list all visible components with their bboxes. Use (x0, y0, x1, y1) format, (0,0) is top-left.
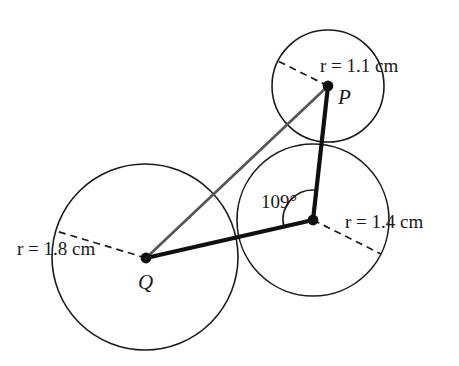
labels-group: r = 1.1 cm r = 1.8 cm r = 1.4 cm 109° P … (17, 55, 423, 294)
radius-label-circle-q: r = 1.8 cm (17, 238, 95, 259)
segment-r-p (313, 86, 328, 220)
geometry-diagram: r = 1.1 cm r = 1.8 cm r = 1.4 cm 109° P … (0, 0, 459, 366)
angle-label-109: 109° (261, 191, 297, 212)
radius-label-circle-r: r = 1.4 cm (345, 211, 423, 232)
triangle-group (146, 86, 328, 258)
segment-q-r (146, 220, 313, 258)
circles-group (52, 30, 389, 350)
center-dot-p (323, 81, 334, 92)
diagram-canvas: r = 1.1 cm r = 1.8 cm r = 1.4 cm 109° P … (0, 0, 459, 366)
point-label-q: Q (138, 270, 153, 294)
radius-label-circle-p: r = 1.1 cm (320, 55, 398, 76)
dashed-radii-group (56, 61, 381, 258)
center-dot-r (308, 215, 319, 226)
center-dot-q (141, 253, 152, 264)
point-label-p: P (337, 85, 351, 109)
segment-p-q (146, 86, 328, 258)
